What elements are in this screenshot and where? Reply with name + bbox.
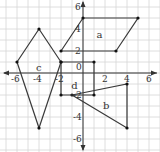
vertex-dot [59,93,62,96]
shape-label-a: a [97,29,103,40]
y-tick-label: -6 [73,134,82,144]
x-tick-label: -6 [11,74,20,84]
x-axis-arrow-right-icon [151,71,157,76]
vertex-dot [114,49,117,52]
vertex-dot [125,126,128,129]
vertex-dot [136,16,139,19]
coordinate-plane: abcd -6-4-20246642-2-4-6 [0,0,160,152]
shape-a: a [59,16,139,52]
vertex-dot [59,60,62,63]
vertex-dot [15,60,18,63]
vertex-dot [92,93,95,96]
origin-label: 0 [76,62,82,72]
vertex-dot [37,27,40,30]
shape-label-c: c [36,62,42,73]
vertex-dot [81,16,84,19]
x-tick-label: -4 [33,74,42,84]
x-tick-label: 2 [102,74,108,84]
x-tick-label: 4 [124,74,130,84]
vertex-dot [37,126,40,129]
shape-label-b: b [103,100,109,111]
vertex-dot [92,60,95,63]
x-tick-label: 6 [146,74,152,84]
y-tick-label: -2 [73,90,82,100]
x-tick-label: -2 [55,74,64,84]
vertex-dot [59,49,62,52]
y-tick-label: 6 [75,2,81,12]
y-tick-label: -4 [73,112,82,122]
y-axis-arrow-up-icon [81,1,86,7]
y-tick-label: 2 [75,46,81,56]
y-tick-label: 4 [75,24,81,34]
